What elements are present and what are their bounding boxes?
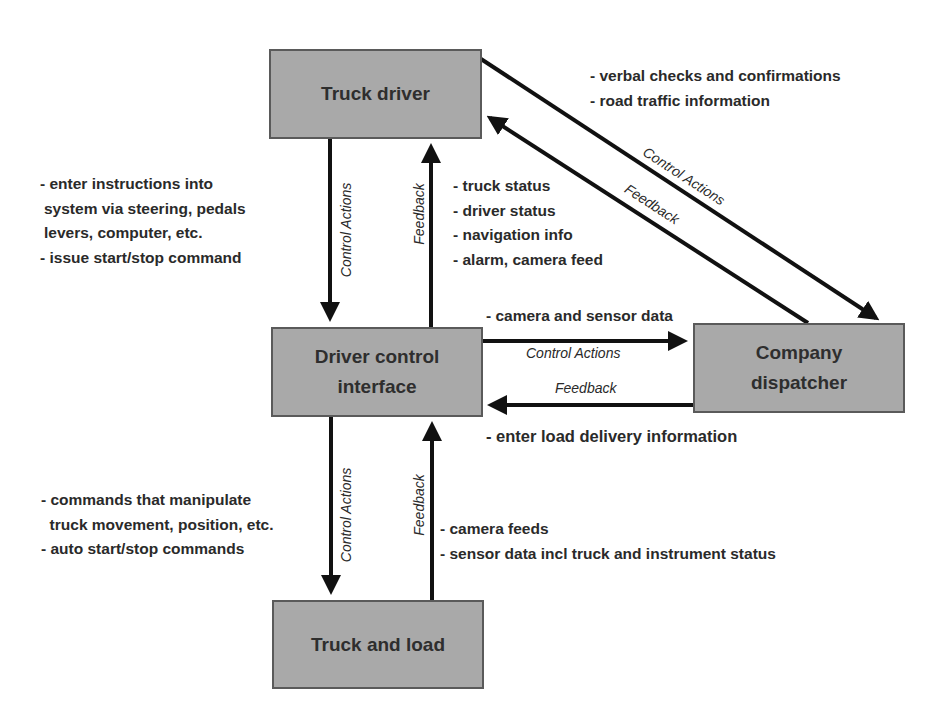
node-company-dispatcher-line1: Company [756,338,843,368]
label-control-actions-driver-interface: Control Actions [338,183,354,277]
node-truck-and-load: Truck and load [272,600,484,689]
note-line: - verbal checks and confirmations [590,64,841,89]
node-truck-driver: Truck driver [269,49,482,139]
label-control-actions-interface-dispatcher: Control Actions [526,345,620,361]
note-interface-to-truck: - commands that manipulate truck movemen… [41,488,274,562]
note-line: - navigation info [453,223,603,248]
note-dispatcher-to-interface: - enter load delivery information [486,424,737,449]
note-line: - enter instructions into [40,172,246,197]
note-line: - sensor data incl truck and instrument … [440,542,776,567]
label-control-actions-interface-truck: Control Actions [338,468,354,562]
note-line: system via steering, pedals [40,197,246,222]
node-driver-control-interface-line1: Driver control [315,342,440,372]
note-interface-to-dispatcher: - camera and sensor data [486,304,673,329]
label-feedback-truck-interface: Feedback [411,474,427,535]
note-line: - auto start/stop commands [41,537,274,562]
node-truck-driver-label: Truck driver [321,79,430,109]
note-interface-to-driver: - truck status - driver status - navigat… [453,174,603,272]
note-line: - commands that manipulate [41,488,274,513]
note-line: - issue start/stop command [40,246,246,271]
note-line: - driver status [453,199,603,224]
label-feedback-interface-driver: Feedback [411,183,427,244]
note-line: truck movement, position, etc. [41,513,274,538]
note-line: - alarm, camera feed [453,248,603,273]
label-feedback-dispatcher-interface: Feedback [555,380,616,396]
node-company-dispatcher-line2: dispatcher [751,368,847,398]
note-line: - camera feeds [440,517,776,542]
note-truck-to-interface: - camera feeds - sensor data incl truck … [440,517,776,566]
note-dispatcher-driver: - verbal checks and confirmations - road… [590,64,841,113]
node-company-dispatcher: Company dispatcher [693,323,905,413]
note-line: levers, computer, etc. [40,221,246,246]
note-line: - truck status [453,174,603,199]
note-line: - enter load delivery information [486,424,737,449]
node-driver-control-interface-line2: interface [337,372,416,402]
node-truck-and-load-label: Truck and load [311,630,445,660]
note-driver-to-interface: - enter instructions into system via ste… [40,172,246,270]
note-line: - camera and sensor data [486,304,673,329]
note-line: - road traffic information [590,89,841,114]
node-driver-control-interface: Driver control interface [271,327,483,417]
